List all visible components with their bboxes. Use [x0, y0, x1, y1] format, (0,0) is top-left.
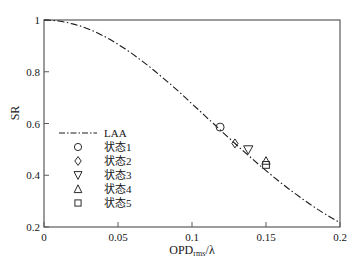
legend-item-状态2: 状态2 — [58, 154, 132, 168]
y-tick-label-3: 0.8 — [14, 66, 40, 77]
legend-item-状态3: 状态3 — [58, 168, 132, 182]
legend-marker-circle-icon — [58, 141, 98, 153]
legend-label: 状态5 — [104, 198, 132, 209]
legend-label: 状态2 — [104, 156, 132, 167]
legend-marker-diamond-icon — [58, 155, 98, 167]
legend-label: 状态3 — [104, 170, 132, 181]
chart-legend: LAA状态1状态2状态3状态4状态5 — [58, 126, 132, 210]
x-axis-title: OPDrms/λ — [169, 243, 214, 258]
x-axis-title-subscript: rms — [193, 249, 205, 258]
y-tick-label-0: 0.2 — [14, 222, 40, 233]
x-tick-label-0: 0 — [41, 232, 47, 243]
legend-marker-triangle-up-icon — [58, 183, 98, 195]
x-tick-label-2: 0.1 — [185, 232, 199, 243]
legend-marker-square-icon — [58, 197, 98, 209]
legend-marker-triangle-down-icon — [58, 169, 98, 181]
y-tick-label-4: 1 — [14, 15, 40, 26]
legend-label: LAA — [104, 128, 127, 139]
legend-label: 状态1 — [104, 142, 132, 153]
legend-marker-line-dashdot-icon — [58, 127, 98, 139]
data-point-series-6 — [263, 162, 270, 169]
legend-item-状态4: 状态4 — [58, 182, 132, 196]
x-axis-title-tail: /λ — [206, 243, 215, 257]
x-tick-label-4: 0.2 — [333, 232, 347, 243]
legend-item-LAA: LAA — [58, 126, 132, 140]
x-axis-title-base: OPD — [169, 243, 193, 257]
x-tick-label-3: 0.15 — [256, 232, 275, 243]
plot-canvas — [0, 0, 361, 271]
legend-item-状态5: 状态5 — [58, 196, 132, 210]
legend-label: 状态4 — [104, 184, 132, 195]
y-tick-label-1: 0.4 — [14, 170, 40, 181]
legend-item-状态1: 状态1 — [58, 140, 132, 154]
chart-figure: SR OPDrms/λ 00.050.10.150.20.20.40.60.81… — [0, 0, 361, 271]
x-tick-label-1: 0.05 — [108, 232, 127, 243]
y-tick-label-2: 0.6 — [14, 118, 40, 129]
